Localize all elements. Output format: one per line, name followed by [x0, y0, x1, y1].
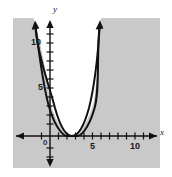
x-axis-arrow-right: [149, 132, 157, 139]
graph-canvas: [0, 0, 172, 177]
parabola-figure: y x 10 5 0 5 10: [0, 0, 172, 177]
y-tick-label-5: 5: [38, 83, 43, 92]
parabola-interior-top-fill: [34, 0, 101, 20]
x-tick-label-5: 5: [90, 142, 95, 151]
origin-label: 0: [43, 139, 47, 147]
y-axis-name-label: y: [53, 5, 57, 14]
y-axis-arrow-down: [46, 159, 53, 167]
x-tick-label-10: 10: [130, 142, 140, 151]
x-axis-arrow-left: [16, 132, 24, 139]
y-tick-label-10: 10: [31, 38, 41, 47]
x-axis-name-label: x: [160, 128, 164, 137]
